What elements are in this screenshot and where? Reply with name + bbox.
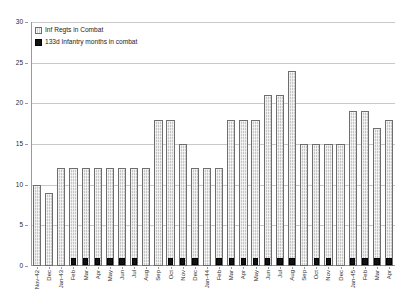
x-tick-mark (122, 267, 123, 269)
bar-133d-infantry (314, 258, 319, 265)
bar-group (359, 22, 371, 266)
bar-group (116, 22, 128, 266)
bar-group (177, 22, 189, 266)
bar-inf-regts (57, 168, 65, 266)
x-tick: Aug (286, 267, 298, 303)
bar-133d-infantry (386, 258, 391, 265)
x-tick-mark (268, 267, 269, 269)
x-tick: Jun (262, 267, 274, 303)
y-tick-mark (25, 144, 28, 145)
legend-item[interactable]: 133d Infantry months in combat (35, 38, 137, 46)
hatch-swatch-icon (35, 27, 42, 34)
bar-group (274, 22, 286, 266)
y-tick-mark (25, 225, 28, 226)
bar-133d-infantry (277, 258, 282, 265)
x-tick-label: Oct (313, 270, 319, 279)
bar-133d-infantry (350, 258, 355, 265)
x-tick-mark (231, 267, 232, 269)
x-tick-label: Jan-45 (350, 270, 356, 288)
bar-group (201, 22, 213, 266)
bar-inf-regts (264, 95, 272, 266)
y-tick-mark (25, 103, 28, 104)
bar-inf-regts (154, 120, 162, 266)
x-tick-mark (158, 267, 159, 269)
x-tick-label: Feb (70, 270, 76, 280)
x-tick-label: Aug (143, 270, 149, 281)
x-tick-mark (61, 267, 62, 269)
bar-inf-regts (69, 168, 77, 266)
bar-inf-regts (179, 144, 187, 266)
x-tick: Feb (67, 267, 79, 303)
bar-133d-infantry (107, 258, 112, 265)
y-tick-mark (25, 266, 28, 267)
bar-133d-infantry (119, 258, 124, 265)
x-tick-mark (110, 267, 111, 269)
bar-133d-infantry (289, 258, 294, 265)
x-tick: Oct (165, 267, 177, 303)
x-tick-mark (316, 267, 317, 269)
bar-group (104, 22, 116, 266)
x-tick: Apr (92, 267, 104, 303)
bar-inf-regts (312, 144, 320, 266)
x-tick-label: Apr (95, 270, 101, 279)
x-tick: Sep (298, 267, 310, 303)
bar-133d-infantry (241, 258, 246, 265)
x-tick: Dec (43, 267, 55, 303)
x-tick-label: Sep (155, 270, 161, 281)
bar-inf-regts (373, 128, 381, 266)
bar-inf-regts (227, 120, 235, 266)
x-tick-label: Aug (289, 270, 295, 281)
x-tick-mark (292, 267, 293, 269)
x-tick: Feb (213, 267, 225, 303)
x-tick-mark (280, 267, 281, 269)
bar-inf-regts (106, 168, 114, 266)
bar-group (225, 22, 237, 266)
bar-group (322, 22, 334, 266)
bar-group (92, 22, 104, 266)
bar-inf-regts (94, 168, 102, 266)
legend-item[interactable]: Inf Regts in Combat (35, 26, 137, 34)
x-tick: Apr (237, 267, 249, 303)
x-tick: Nov (322, 267, 334, 303)
bar-inf-regts (82, 168, 90, 266)
bar-133d-infantry (216, 258, 221, 265)
x-tick-label: May (253, 270, 259, 281)
bar-inf-regts (324, 144, 332, 266)
bar-inf-regts (385, 120, 393, 266)
legend-label: 133d Infantry months in combat (45, 39, 137, 46)
bar-133d-infantry (168, 258, 173, 265)
x-tick-label: Mar (228, 270, 234, 280)
x-tick-mark (341, 267, 342, 269)
x-tick-mark (328, 267, 329, 269)
x-tick: Dec (335, 267, 347, 303)
x-tick-label: Apr (386, 270, 392, 279)
bar-group (347, 22, 359, 266)
bar-inf-regts (361, 111, 369, 266)
x-tick-label: Jan-43 (58, 270, 64, 288)
bar-inf-regts (251, 120, 259, 266)
bar-group (43, 22, 55, 266)
x-tick-mark (49, 267, 50, 269)
y-tick-label: 15 (16, 141, 23, 148)
y-tick-label: 0 (19, 263, 23, 270)
bar-inf-regts (336, 144, 344, 266)
x-tick-mark (98, 267, 99, 269)
bar-group (80, 22, 92, 266)
x-tick: Feb (359, 267, 371, 303)
bar-group (189, 22, 201, 266)
bar-133d-infantry (265, 258, 270, 265)
bar-inf-regts (276, 95, 284, 266)
x-tick-mark (304, 267, 305, 269)
x-tick: Jan-43 (55, 267, 67, 303)
x-tick-label: Nov (180, 270, 186, 281)
bar-inf-regts (215, 168, 223, 266)
bar-group (213, 22, 225, 266)
bar-133d-infantry (229, 258, 234, 265)
x-tick: Sep (152, 267, 164, 303)
bar-inf-regts (118, 168, 126, 266)
x-tick-label: Dec (338, 270, 344, 281)
x-tick-mark (365, 267, 366, 269)
bar-inf-regts (191, 168, 199, 266)
bar-group (128, 22, 140, 266)
x-tick-label: Jan-44 (204, 270, 210, 288)
